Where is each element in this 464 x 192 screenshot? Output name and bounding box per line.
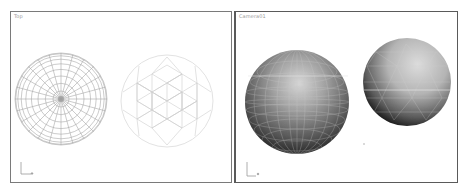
camera-viewport-scene[interactable]	[236, 12, 458, 182]
axis-tripod-icon	[21, 162, 33, 174]
scene-dot	[363, 143, 364, 144]
top-viewport-scene[interactable]	[11, 12, 231, 182]
axis-tripod-icon	[247, 162, 259, 176]
geosphere-wireframe-top[interactable]	[121, 55, 213, 147]
top-viewport[interactable]: Top	[10, 11, 232, 183]
sphere-shaded-camera[interactable]	[245, 50, 349, 157]
camera-viewport[interactable]: Camera01	[234, 11, 458, 183]
geosphere-shaded-camera[interactable]	[363, 38, 451, 126]
sphere-wireframe-top[interactable]	[15, 53, 107, 145]
